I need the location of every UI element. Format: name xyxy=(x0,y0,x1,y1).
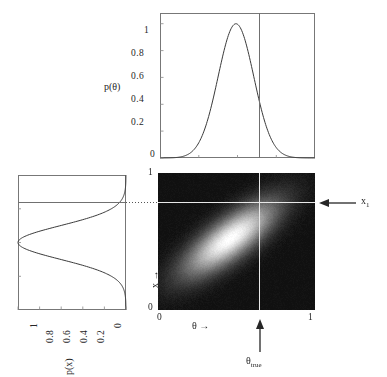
left-xtick-0: 0 xyxy=(114,323,124,328)
top-ytick-02: 0.2 xyxy=(131,118,144,128)
x1-annotation-arrow xyxy=(318,196,358,210)
main-xtick-0: 0 xyxy=(157,313,162,323)
left-xtick-06: 0.6 xyxy=(63,330,73,343)
theta-true-crosshair-vertical xyxy=(259,173,260,310)
x1-annotation-label: x1 xyxy=(361,196,370,209)
x1-annotation-subscript: 1 xyxy=(366,201,370,209)
marginal-x-curve xyxy=(18,175,126,310)
main-ytick-0: 0 xyxy=(148,303,153,313)
theta-true-annotation-subscript: true xyxy=(251,361,262,369)
main-xtick-1: 1 xyxy=(308,313,313,323)
top-ytick-08: 0.8 xyxy=(131,49,144,59)
left-xtick-04: 0.4 xyxy=(80,330,90,343)
theta-true-annotation-label: θtrue xyxy=(246,356,262,369)
top-ytick-1: 1 xyxy=(144,26,149,36)
left-panel-xlabel: p(x) xyxy=(64,358,74,375)
x1-dotted-connector xyxy=(126,202,159,203)
joint-density-heatmap xyxy=(158,173,315,310)
top-ytick-0: 0 xyxy=(150,150,155,160)
main-ytick-1: 1 xyxy=(148,168,153,178)
top-ytick-06: 0.6 xyxy=(131,72,144,82)
marginal-theta-curve xyxy=(160,13,315,158)
bayesian-joint-marginal-figure: 1 0.8 0.6 0.4 0.2 0 p(θ) 1 0.8 0.6 0.4 0… xyxy=(0,0,387,377)
x1-crosshair-horizontal xyxy=(158,202,315,203)
left-xtick-02: 0.2 xyxy=(97,330,107,343)
theta-true-annotation-arrow xyxy=(252,318,268,354)
main-panel-ylabel: x → xyxy=(150,271,160,289)
theta-true-vline-top xyxy=(259,13,260,158)
main-panel-xlabel: θ → xyxy=(192,321,209,331)
left-xtick-1: 1 xyxy=(30,323,40,328)
heatmap-canvas xyxy=(158,173,315,310)
top-panel-ylabel: p(θ) xyxy=(104,82,120,92)
left-xtick-08: 0.8 xyxy=(46,330,56,343)
top-ytick-04: 0.4 xyxy=(131,95,144,105)
x1-hline-left xyxy=(18,202,126,203)
